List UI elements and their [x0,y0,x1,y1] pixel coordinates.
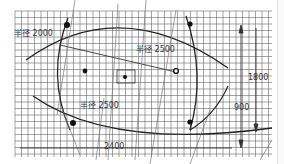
arc-right-side [186,16,197,130]
label-radius-2000: 半径 2000 [14,28,53,38]
arc-bottom-right [190,86,228,130]
technical-drawing: 半径 2000 半径 2500 半径 2500 2400 1800 900 [0,0,284,164]
label-dim-2400: 2400 [104,142,124,151]
label-radius-2500-top: 半径 2500 [136,44,175,54]
label-dim-1800: 1800 [248,73,268,82]
page-edge [277,0,284,164]
label-dim-900: 900 [234,103,249,112]
label-radius-2500-bottom: 半径 2500 [80,100,119,110]
right-inner-ring [174,69,179,74]
arc-radius-2000-top [26,28,228,68]
